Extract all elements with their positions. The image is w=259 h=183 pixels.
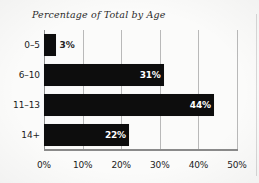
x-axis-tick: 0% bbox=[37, 160, 51, 170]
bar-value-label: 3% bbox=[60, 40, 75, 50]
plot-area: 3%31%44%22% bbox=[44, 30, 237, 150]
chart-title: Percentage of Total by Age bbox=[32, 9, 165, 20]
page-edge-rule bbox=[256, 14, 257, 176]
x-axis-tick: 20% bbox=[111, 160, 130, 170]
gridline-50 bbox=[237, 30, 238, 150]
y-axis-label: 14+ bbox=[0, 130, 40, 140]
bar-row: 22% bbox=[44, 124, 237, 146]
x-axis-tick: 30% bbox=[150, 160, 169, 170]
bar[interactable] bbox=[44, 94, 214, 116]
bar-value-label: 22% bbox=[105, 130, 126, 140]
bar-row: 3% bbox=[44, 34, 237, 56]
x-axis-line bbox=[44, 149, 238, 151]
bar-row: 31% bbox=[44, 64, 237, 86]
bar-value-label: 31% bbox=[140, 70, 161, 80]
x-axis-tick: 40% bbox=[189, 160, 208, 170]
y-axis-category-labels: 0–56–1011–1314+ bbox=[0, 30, 40, 150]
x-axis-tick: 50% bbox=[227, 160, 246, 170]
bar-value-label: 44% bbox=[190, 100, 211, 110]
x-axis-tick: 10% bbox=[73, 160, 92, 170]
y-axis-label: 0–5 bbox=[0, 40, 40, 50]
y-axis-label: 11–13 bbox=[0, 100, 40, 110]
x-axis-tick-labels: 0%10%20%30%40%50% bbox=[44, 160, 237, 174]
bar-row: 44% bbox=[44, 94, 237, 116]
y-axis-label: 6–10 bbox=[0, 70, 40, 80]
bar[interactable] bbox=[44, 34, 56, 56]
chart-figure: Percentage of Total by Age 3%31%44%22% 0… bbox=[0, 0, 259, 183]
